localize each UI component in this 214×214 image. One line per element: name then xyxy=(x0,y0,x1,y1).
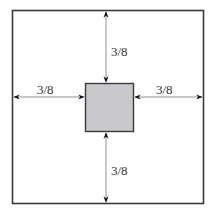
bottom-dimension-label: 3/8 xyxy=(111,164,128,177)
top-dimension-label: 3/8 xyxy=(111,45,128,58)
margin-diagram: 3/8 3/8 3/8 3/8 xyxy=(0,0,214,214)
right-dimension-label: 3/8 xyxy=(156,83,173,96)
left-dimension-label: 3/8 xyxy=(37,83,54,96)
diagram-graphic xyxy=(0,0,214,214)
inner-square xyxy=(86,84,134,132)
